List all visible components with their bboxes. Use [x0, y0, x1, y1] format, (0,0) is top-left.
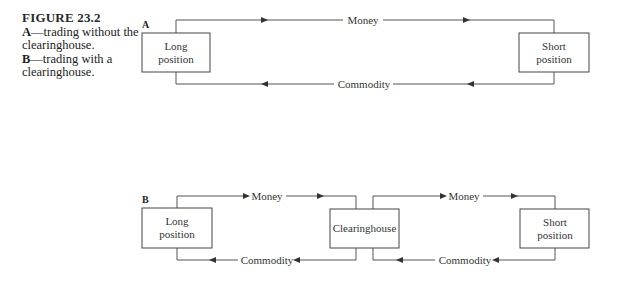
commodity-line-a-left [176, 72, 334, 84]
clearinghouse-diagram: A Money Commodity Long position Short po… [0, 0, 623, 281]
commodity-line-b-right-2 [497, 248, 555, 260]
short-box-a-line2: position [536, 53, 572, 65]
money-line-b-left-2 [286, 196, 356, 209]
arrow-left-icon [261, 81, 268, 87]
commodity-label-b-left: Commodity [241, 254, 294, 266]
money-line-a-left [176, 20, 343, 33]
long-box-b-line2: position [159, 228, 195, 240]
arrow-left-icon [209, 257, 216, 263]
clearinghouse-label: Clearinghouse [333, 222, 397, 234]
short-box-a-line1: Short [542, 40, 566, 52]
arrow-left-icon [396, 257, 403, 263]
arrow-left-icon [467, 81, 474, 87]
money-line-b-right-1 [373, 196, 444, 209]
arrow-right-icon [511, 193, 518, 199]
panel-a: A Money Commodity Long position Short po… [142, 14, 589, 90]
arrow-right-icon [440, 193, 447, 199]
commodity-line-b-left-2 [298, 248, 356, 260]
short-box-b-line2: position [537, 229, 573, 241]
commodity-line-b-right-1 [373, 248, 435, 260]
long-box-a-line2: position [158, 53, 194, 65]
arrow-right-icon [463, 17, 470, 23]
money-label-b-right: Money [448, 190, 480, 202]
arrow-right-icon [317, 193, 324, 199]
arrow-left-icon [293, 257, 300, 263]
arrow-right-icon [243, 193, 250, 199]
money-line-b-right-2 [483, 196, 555, 209]
arrow-right-icon [261, 17, 268, 23]
long-box-a-line1: Long [164, 40, 188, 52]
commodity-label-b-right: Commodity [439, 254, 492, 266]
short-box-b-line1: Short [543, 216, 567, 228]
arrow-left-icon [492, 257, 499, 263]
money-line-b-left-1 [177, 196, 248, 208]
money-label-a: Money [347, 14, 379, 26]
panel-b: B Money Commodity Money Commodity Long p… [142, 190, 589, 266]
long-box-b-line1: Long [165, 215, 189, 227]
panel-b-label: B [142, 194, 149, 205]
commodity-line-b-left-1 [177, 248, 238, 260]
money-line-a-right [383, 20, 554, 33]
commodity-label-a: Commodity [338, 78, 391, 90]
money-label-b-left: Money [251, 190, 283, 202]
panel-a-label: A [142, 19, 150, 30]
